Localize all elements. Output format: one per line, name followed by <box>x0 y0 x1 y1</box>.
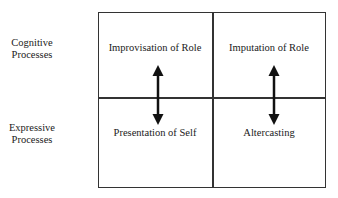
cell-presentation-of-self: Presentation of Self <box>98 127 212 138</box>
cell-altercasting: Altercasting <box>212 127 326 138</box>
row-label-cognitive-line1: Cognitive <box>0 37 64 49</box>
row-label-cognitive: Cognitive Processes <box>0 37 64 61</box>
cell-improvisation-of-role: Improvisation of Role <box>98 42 212 53</box>
grid-horizontal-divider <box>99 97 325 99</box>
row-label-expressive: Expressive Processes <box>0 122 64 146</box>
row-label-expressive-line2: Processes <box>0 134 64 146</box>
grid-vertical-divider <box>212 13 214 187</box>
cell-imputation-of-role: Imputation of Role <box>212 42 326 53</box>
row-label-cognitive-line2: Processes <box>0 49 64 61</box>
process-grid <box>98 12 326 188</box>
row-label-expressive-line1: Expressive <box>0 122 64 134</box>
